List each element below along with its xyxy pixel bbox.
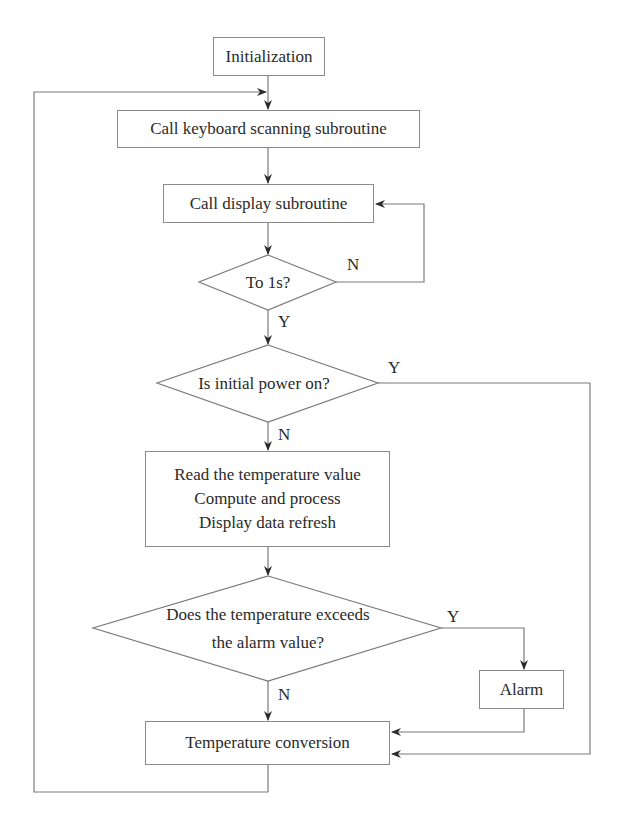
node-initialization-label: Initialization: [226, 47, 313, 67]
label-exceeds-yes: Y: [447, 607, 459, 627]
edge-exceeds-yes: [441, 628, 524, 669]
decision-power-label: Is initial power on?: [198, 374, 330, 394]
node-process-line-1: Read the temperature value: [174, 463, 360, 487]
label-power-yes: Y: [388, 358, 400, 378]
node-display-subroutine: Call display subroutine: [163, 184, 374, 223]
node-alarm: Alarm: [479, 670, 564, 709]
node-process-line-3: Display data refresh: [199, 511, 336, 535]
decision-exceeds-line-1: Does the temperature exceeds: [166, 601, 369, 629]
edge-alarm-conversion: [392, 709, 524, 732]
node-temperature-conversion: Temperature conversion: [145, 721, 390, 765]
label-to1s-yes: Y: [278, 312, 290, 332]
node-temperature-conversion-label: Temperature conversion: [185, 733, 350, 753]
label-to1s-no: N: [347, 255, 359, 275]
label-power-no: N: [278, 425, 290, 445]
label-exceeds-no: N: [278, 685, 290, 705]
node-keyboard-scan: Call keyboard scanning subroutine: [117, 110, 420, 148]
node-process: Read the temperature value Compute and p…: [145, 451, 390, 547]
node-alarm-label: Alarm: [500, 680, 543, 700]
decision-exceeds-label: Does the temperature exceeds the alarm v…: [166, 601, 369, 657]
decision-to1s-label: To 1s?: [246, 273, 291, 293]
node-keyboard-scan-label: Call keyboard scanning subroutine: [150, 119, 387, 139]
node-initialization: Initialization: [213, 37, 325, 76]
decision-exceeds-line-2: the alarm value?: [166, 629, 369, 657]
node-process-line-2: Compute and process: [194, 487, 340, 511]
node-display-subroutine-label: Call display subroutine: [190, 194, 348, 214]
